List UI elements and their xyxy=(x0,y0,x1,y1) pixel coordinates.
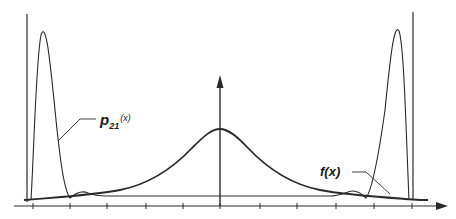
p21-label: p21(x) xyxy=(100,111,131,128)
p21-main: p xyxy=(100,111,109,128)
y-axis-arrow-icon xyxy=(217,75,224,88)
p21-argument: (x) xyxy=(120,113,131,123)
f-label: f(x) xyxy=(320,164,340,179)
f-text: f(x) xyxy=(320,164,340,179)
p21-subscript: 21 xyxy=(109,121,119,131)
probability-density-diagram xyxy=(0,0,456,219)
x-axis-arrow-icon xyxy=(436,202,448,210)
f-callout-line xyxy=(352,172,390,194)
p21-callout-line xyxy=(58,119,96,141)
f-curve xyxy=(24,129,428,200)
y-axis xyxy=(217,75,224,206)
x-axis xyxy=(14,202,448,210)
